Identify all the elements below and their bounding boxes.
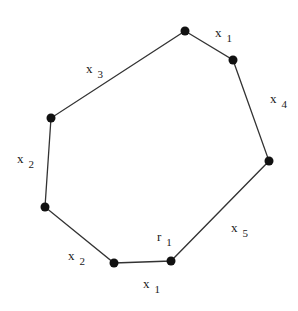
vertex-dot [41, 203, 50, 212]
edge-label: x5 [231, 220, 249, 239]
vertex-dot [181, 27, 190, 36]
vertex-dot [265, 157, 274, 166]
label-group: x1x3x4x2x5x2x1r1 [17, 25, 288, 295]
edge-label: x2 [17, 151, 34, 170]
vertex-dot [47, 114, 56, 123]
edge-label: x2 [68, 248, 85, 267]
edge-label: x4 [270, 91, 288, 110]
edge-label: x3 [86, 61, 104, 80]
vertex-dot [229, 56, 238, 65]
edge-label: x1 [143, 276, 160, 295]
polygon-diagram: x1x3x4x2x5x2x1r1 [0, 0, 298, 311]
vertex-label: r1 [157, 229, 172, 248]
edge-label: x1 [215, 25, 232, 44]
vertex-dot [167, 257, 176, 266]
vertex-dot [110, 259, 119, 268]
